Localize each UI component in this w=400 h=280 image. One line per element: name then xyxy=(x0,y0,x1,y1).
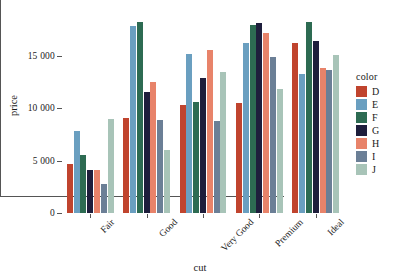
plot-area: 05 00010 00015 000 xyxy=(62,18,344,213)
legend-item-label: G xyxy=(372,126,379,136)
legend-swatch-icon xyxy=(356,164,367,175)
bar[interactable] xyxy=(313,41,319,213)
legend-item-h[interactable]: H xyxy=(356,137,400,150)
legend-item-label: H xyxy=(372,139,379,149)
bar[interactable] xyxy=(326,70,332,213)
bar[interactable] xyxy=(243,43,249,213)
legend-item-d[interactable]: D xyxy=(356,85,400,98)
legend-swatch-icon xyxy=(356,112,367,123)
bar[interactable] xyxy=(214,121,220,213)
legend: color DEFGHIJ xyxy=(356,71,400,176)
x-axis-tick-label: Very Good xyxy=(219,217,255,253)
legend-swatch-icon xyxy=(356,125,367,136)
bar[interactable] xyxy=(94,170,100,213)
x-axis-tick-label: Ideal xyxy=(325,217,346,238)
legend-item-i[interactable]: I xyxy=(356,150,400,163)
x-axis-tick xyxy=(316,214,317,218)
legend-items: DEFGHIJ xyxy=(356,85,400,176)
y-axis-title: price xyxy=(8,95,19,116)
y-axis-tick-label: 15 000 xyxy=(28,51,55,61)
bar[interactable] xyxy=(157,120,163,213)
bar-group xyxy=(62,18,118,213)
y-axis-tick xyxy=(57,213,62,214)
bar[interactable] xyxy=(180,105,186,213)
legend-swatch-icon xyxy=(356,138,367,149)
bar[interactable] xyxy=(256,23,262,213)
legend-item-label: F xyxy=(372,113,378,123)
legend-item-f[interactable]: F xyxy=(356,111,400,124)
legend-swatch-icon xyxy=(356,151,367,162)
bar[interactable] xyxy=(263,33,269,213)
y-axis-tick-label: 5 000 xyxy=(33,156,55,166)
x-axis-tick xyxy=(259,214,260,218)
x-axis-title: cut xyxy=(0,262,400,273)
bar[interactable] xyxy=(150,82,156,213)
bar[interactable] xyxy=(200,78,206,213)
bar-group xyxy=(175,18,231,213)
bar[interactable] xyxy=(74,131,80,213)
bar[interactable] xyxy=(207,50,213,213)
legend-item-label: J xyxy=(372,165,376,175)
x-axis-tick xyxy=(147,214,148,218)
legend-item-j[interactable]: J xyxy=(356,163,400,176)
bar-group xyxy=(231,18,287,213)
bar[interactable] xyxy=(299,74,305,213)
x-axis-tick xyxy=(90,214,91,218)
bar[interactable] xyxy=(306,22,312,213)
bar[interactable] xyxy=(292,43,298,213)
legend-swatch-icon xyxy=(356,99,367,110)
legend-item-g[interactable]: G xyxy=(356,124,400,137)
x-axis-tick-label: Fair xyxy=(99,217,117,235)
legend-item-label: E xyxy=(372,100,378,110)
bar[interactable] xyxy=(130,26,136,213)
bar[interactable] xyxy=(144,92,150,213)
bar[interactable] xyxy=(277,89,283,213)
bar-group xyxy=(118,18,174,213)
bar[interactable] xyxy=(270,57,276,213)
bar[interactable] xyxy=(108,119,114,213)
bar[interactable] xyxy=(186,54,192,213)
bar[interactable] xyxy=(320,68,326,213)
x-axis-tick xyxy=(203,214,204,218)
legend-item-label: D xyxy=(372,87,379,97)
chart-figure: 05 00010 00015 000 FairGoodVery GoodPrem… xyxy=(0,0,400,280)
bar[interactable] xyxy=(164,150,170,213)
bar-group xyxy=(288,18,344,213)
legend-title: color xyxy=(356,71,400,82)
bar[interactable] xyxy=(123,118,129,213)
bar[interactable] xyxy=(80,155,86,213)
bar[interactable] xyxy=(137,22,143,213)
bar[interactable] xyxy=(67,164,73,213)
bar[interactable] xyxy=(87,170,93,213)
y-axis-tick-label: 10 000 xyxy=(28,103,55,113)
bar[interactable] xyxy=(193,102,199,213)
bar[interactable] xyxy=(333,55,339,213)
y-axis-tick-label: 0 xyxy=(50,208,55,218)
legend-item-label: I xyxy=(372,152,375,162)
x-axis-tick-label: Good xyxy=(157,217,179,239)
y-axis-line xyxy=(0,0,1,196)
bar[interactable] xyxy=(236,103,242,213)
legend-swatch-icon xyxy=(356,86,367,97)
x-axis-tick-label: Premium xyxy=(274,217,306,249)
bar[interactable] xyxy=(101,184,107,213)
bar[interactable] xyxy=(250,25,256,213)
legend-item-e[interactable]: E xyxy=(356,98,400,111)
bar[interactable] xyxy=(220,72,226,213)
